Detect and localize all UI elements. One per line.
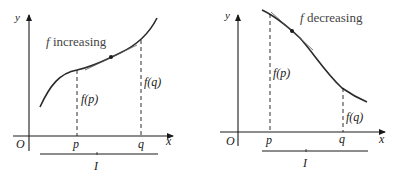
y-axis-label: y (14, 11, 20, 23)
q-tick-label: q (138, 137, 144, 151)
decreasing-panel: y x O p q f(p) f(q) I f decreasing (220, 9, 385, 170)
origin-label: O (16, 137, 25, 151)
caption-word: decreasing (304, 10, 363, 25)
fp-label: f(p) (81, 92, 98, 106)
increasing-panel: y x O p q f(p) f(q) I f increasing (13, 11, 173, 173)
increasing-curve (40, 18, 157, 107)
x-axis-label: x (165, 134, 172, 148)
fq-label: f(q) (346, 110, 363, 124)
fq-label: f(q) (144, 75, 161, 89)
p-tick-label: p (265, 133, 272, 147)
interval-label: I (93, 159, 99, 173)
q-tick-label: q (339, 132, 345, 146)
tangent-point (109, 55, 113, 59)
origin-label: O (226, 134, 235, 148)
p-tick-label: p (72, 137, 79, 151)
increasing-caption: f increasing (46, 34, 107, 49)
interval-label: I (302, 156, 308, 170)
fp-label: f(p) (273, 66, 290, 80)
y-axis-label: y (224, 9, 230, 21)
x-axis-label: x (378, 132, 385, 146)
tangent-point (290, 29, 294, 33)
decreasing-caption: f decreasing (300, 10, 363, 25)
caption-word: increasing (50, 34, 107, 49)
monotonic-functions-diagram: y x O p q f(p) f(q) I f increasing y x O… (0, 0, 393, 177)
